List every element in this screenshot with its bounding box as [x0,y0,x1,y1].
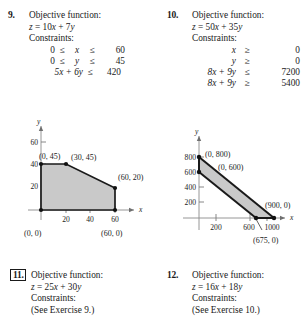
column-right: 10. Objective function: z = 50x + 35y Co… [153,0,306,335]
graph-9: 20 40 60 20 40 60 x y (0, 45) (30, 45) (… [8,112,153,247]
exercise-11-objective: z = 25x + 30y [31,282,163,294]
exercise-11-objective-label: Objective function: [31,270,163,282]
exercise-11-see-ref: (See Exercise 9.) [31,305,163,317]
exercise-12-objective: z = 16x + 18y [192,282,306,294]
graph-10-ytick-200: 200 [185,198,197,207]
c9-r1-op1: ≤ [55,45,69,56]
exercise-9-objective: z = 10x + 7y [29,22,161,34]
column-left: 9. Objective function: z = 10x + 7y Cons… [0,0,153,335]
exercise-10-constraints: x ≥ 0 y ≥ 0 8x + 9y ≤ 7200 8x + 9y ≥ 540… [192,45,306,90]
graph-9-ytick-60: 60 [30,138,38,147]
graph-9-feasible-region [41,164,115,210]
exercise-11-constraints-label: Constraints: [31,293,163,305]
c10-r2-op: ≥ [236,56,258,67]
c10-r2-b: 0 [268,56,300,67]
graph-9-vertex-label-60-20: (60, 20) [118,173,144,182]
c10-r4-expr: 8x + 9y [192,78,236,89]
c10-r4-b: 5400 [268,78,300,89]
exercise-10-objective: z = 50x + 35y [192,22,306,34]
c9-r3-op: ≤ [83,67,97,78]
graph-10-leader-675 [256,219,262,230]
exercise-9-number: 9. [8,10,15,20]
exercise-11-body: Objective function: z = 25x + 30y Constr… [31,270,163,316]
graph-10-vertex-label-900-0: (900, 0) [265,201,291,210]
graph-9-xlabel: x [138,205,143,214]
exercise-10-objective-label: Objective function: [192,10,306,22]
graph-9-xtick-20: 20 [62,215,70,224]
c9-r2-b: 45 [99,56,125,67]
c10-r4-op: ≥ [236,78,258,89]
graph-10-vertex-label-0-600: (0, 600) [218,163,244,172]
c9-r3-expr: 5x + 6y [31,67,83,78]
graph-10-xtick-200: 200 [210,223,222,232]
c10-r3-op: ≤ [236,67,258,78]
graph-10-ytick-400: 400 [185,183,197,192]
graph-10: 200 400 600 800 200 600 1000 x y (0, 800… [161,124,306,249]
exercise-9-body: Objective function: z = 10x + 7y Constra… [29,10,161,78]
c9-r2-op1: ≤ [55,56,69,67]
exercise-9-constraint-3: 5x + 6y ≤ 420 [31,67,161,78]
graph-10-ylabel: y [194,127,199,136]
c9-r1-op2: ≤ [85,45,99,56]
c10-r3-expr: 8x + 9y [192,67,236,78]
graph-9-ylabel: y [36,117,41,126]
graph-9-vertex-label-0-0: (0, 0) [24,229,42,238]
graph-10-ytick-600: 600 [185,168,197,177]
graph-10-vertex-label-0-800: (0, 800) [205,150,231,159]
graph-9-vertex-label-60-0: (60, 0) [101,229,123,238]
graph-9-xtick-40: 40 [86,215,94,224]
c10-r3-b: 7200 [268,67,300,78]
exercise-9-constraints-label: Constraints: [29,33,161,45]
graph-9-vertex-label-30-45: (30, 45) [71,153,97,162]
graph-10-xlabel: x [289,213,294,222]
exercise-12-body: Objective function: z = 16x + 18y Constr… [192,270,306,316]
c9-r1-b: 60 [99,45,125,56]
graph-10-xtick-600: 600 [243,223,255,232]
textbook-page: 9. Objective function: z = 10x + 7y Cons… [0,0,306,335]
exercise-9-objective-label: Objective function: [29,10,161,22]
graph-9-vertex-label-0-45: (0, 45) [39,152,61,161]
c9-r2-var: y [69,56,85,67]
exercise-11-number: 11. [10,269,26,281]
c9-r1-a: 0 [29,45,55,56]
c10-r1-b: 0 [268,45,300,56]
c9-r1-var: x [69,45,85,56]
c10-r1-op: ≥ [236,45,258,56]
exercise-12-constraints-label: Constraints: [192,293,306,305]
exercise-9-constraints: 0 ≤ x ≤ 60 0 ≤ y ≤ 45 [29,45,161,67]
graph-9-xtick-60: 60 [111,215,119,224]
exercise-12-number: 12. [167,270,178,280]
graph-10-vertex-label-675-0: (675, 0) [253,236,279,245]
graph-10-xtick-1000: 1000 [264,223,279,232]
exercise-12-see-ref: (See Exercise 10.) [192,305,306,317]
graph-9-ytick-20: 20 [30,182,38,191]
c9-r2-op2: ≤ [85,56,99,67]
c9-r3-b: 420 [97,67,121,78]
graph-9-ytick-40: 40 [30,160,38,169]
exercise-10-body: Objective function: z = 50x + 35y Constr… [192,10,306,90]
c10-r1-expr: x [192,45,236,56]
c10-r2-expr: y [192,56,236,67]
exercise-10-constraints-label: Constraints: [192,33,306,45]
exercise-12-objective-label: Objective function: [192,270,306,282]
c9-r2-a: 0 [29,56,55,67]
exercise-10-number: 10. [167,10,178,20]
graph-10-ytick-800: 800 [185,153,197,162]
